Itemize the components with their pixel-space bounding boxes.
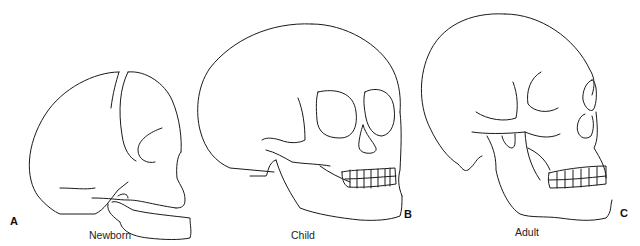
newborn-skull-drawing — [29, 72, 191, 240]
caption-newborn: Newborn — [89, 229, 131, 241]
panel-letter-c: C — [620, 207, 628, 219]
panel-letter-a: A — [10, 215, 18, 227]
skull-growth-figure: A B C Newborn Child Adult — [0, 0, 640, 246]
caption-adult: Adult — [515, 226, 539, 238]
child-skull-drawing — [198, 24, 402, 221]
panel-letter-b: B — [404, 208, 412, 220]
caption-child: Child — [291, 229, 315, 241]
skull-drawings — [0, 0, 640, 246]
adult-skull-drawing — [421, 14, 612, 220]
